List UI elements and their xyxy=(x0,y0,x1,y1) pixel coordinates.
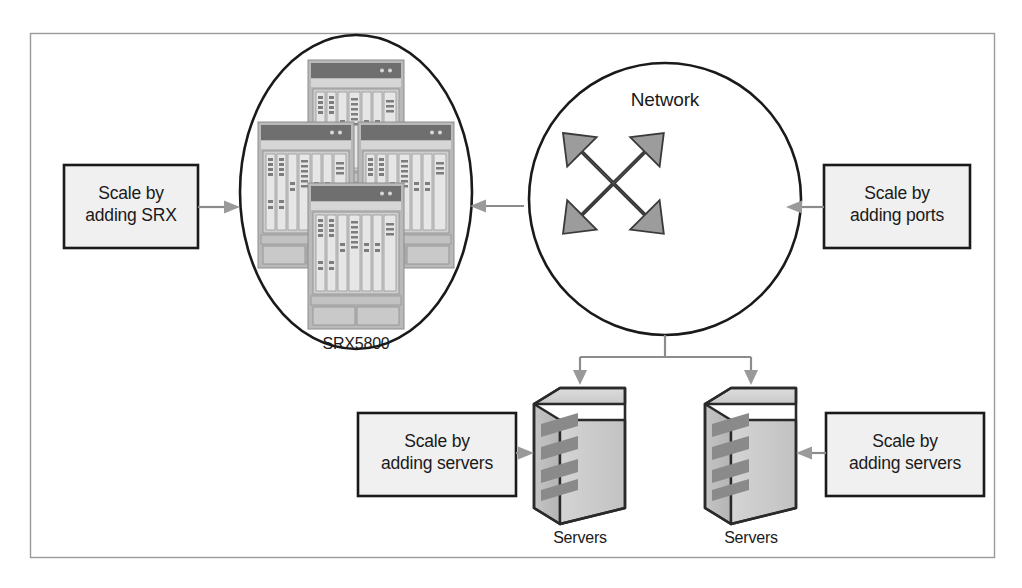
diagram-canvas: Network SRX5800 Servers Servers Scale by… xyxy=(0,0,1022,588)
connector-scale-servers-right xyxy=(796,447,826,460)
callout-scale-servers-left[interactable] xyxy=(358,413,516,496)
srx-cluster-node xyxy=(240,35,472,349)
callout-scale-servers-right[interactable] xyxy=(826,413,984,496)
network-scaling-diagram xyxy=(0,0,1022,588)
server-right-node xyxy=(705,388,796,524)
connector-scale-srx xyxy=(198,201,240,214)
network-node xyxy=(529,63,801,335)
arrowhead-down-left xyxy=(573,370,587,385)
srx-chassis-bottom xyxy=(308,183,404,329)
network-circle xyxy=(529,63,801,335)
connector-network-to-servers xyxy=(573,335,758,385)
server-left-node xyxy=(534,388,625,524)
connector-network-to-srx xyxy=(470,200,524,213)
callout-scale-srx[interactable] xyxy=(64,165,198,248)
callout-scale-ports[interactable] xyxy=(824,165,970,248)
connector-scale-servers-left xyxy=(516,447,534,460)
arrowhead-down-right xyxy=(744,370,758,385)
